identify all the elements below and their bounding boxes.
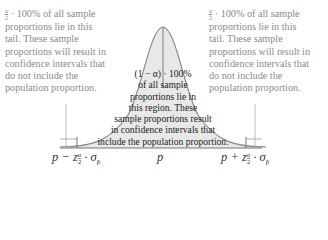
axis-label-center-p: p — [157, 150, 163, 165]
axis-label-upper-bound: p + zα2 · σp̂ — [221, 150, 269, 165]
center-region-annotation: (1 − α) · 100% of all sample proportions… — [83, 68, 243, 147]
axis-label-lower-bound: p − zα2 · σp̂ — [52, 150, 100, 165]
